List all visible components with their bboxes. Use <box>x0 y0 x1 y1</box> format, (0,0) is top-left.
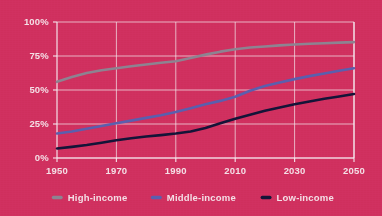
y-tick-label: 0% <box>35 152 49 163</box>
legend-label[interactable]: Middle-income <box>167 192 236 203</box>
legend-label[interactable]: Low-income <box>277 192 334 203</box>
chart-gridlines <box>57 22 354 158</box>
y-tick-label: 25% <box>29 118 49 129</box>
legend-swatch[interactable] <box>261 196 272 199</box>
series-line-low-income <box>57 94 354 148</box>
y-axis-tick-labels: 0%25%50%75%100% <box>24 16 49 163</box>
y-tick-label: 100% <box>24 16 49 27</box>
y-tick-label: 75% <box>29 50 49 61</box>
chart-svg: 0%25%50%75%100% 195019701990201020302050… <box>0 0 382 216</box>
legend-swatch[interactable] <box>151 196 162 199</box>
x-tick-label: 2010 <box>224 165 246 176</box>
x-tick-label: 1970 <box>105 165 127 176</box>
x-tick-label: 1990 <box>165 165 187 176</box>
legend-label[interactable]: High-income <box>68 192 128 203</box>
x-axis-tick-labels: 195019701990201020302050 <box>46 165 365 176</box>
chart-series <box>57 42 354 148</box>
line-chart: 0%25%50%75%100% 195019701990201020302050… <box>0 0 382 216</box>
y-tick-label: 50% <box>29 84 49 95</box>
x-tick-label: 2050 <box>343 165 365 176</box>
chart-legend[interactable]: High-incomeMiddle-incomeLow-income <box>52 192 334 203</box>
legend-swatch[interactable] <box>52 196 63 199</box>
x-tick-label: 1950 <box>46 165 68 176</box>
x-tick-label: 2030 <box>284 165 306 176</box>
x-tick-marks <box>57 158 354 162</box>
